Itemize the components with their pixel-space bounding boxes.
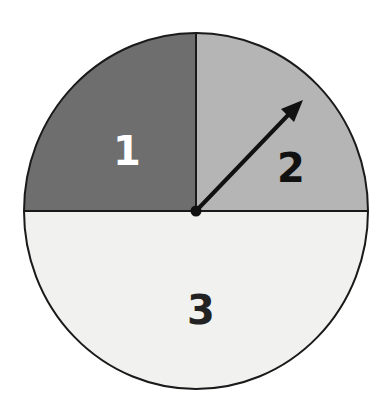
section-3-label: 3 [187,287,215,333]
section-2-label: 2 [277,145,305,191]
section-1-label: 1 [113,128,141,174]
section-1 [24,33,196,211]
spinner-diagram: 1 2 3 [0,0,386,416]
spinner-center-pin [191,206,202,217]
